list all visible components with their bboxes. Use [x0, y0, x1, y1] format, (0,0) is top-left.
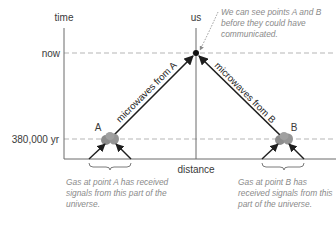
- brace-a: [89, 163, 131, 170]
- signal-to-a-left-arrow: [89, 144, 105, 159]
- signal-to-a-right-arrow: [116, 144, 131, 159]
- svg-text:part of the universe.: part of the universe.: [237, 199, 312, 209]
- svg-text:signals from this part of the: signals from this part of the: [66, 188, 167, 198]
- signal-to-b-right-arrow: [289, 144, 304, 159]
- observer-label: us: [191, 12, 202, 23]
- svg-text:We can see points A and B: We can see points A and B: [221, 7, 322, 17]
- gas-blob-b: [275, 132, 293, 145]
- distance-axis-label: distance: [177, 164, 215, 175]
- observer-annotation: We can see points A and B before they co…: [221, 7, 322, 39]
- microwaves-from-a-arrow: [112, 56, 193, 137]
- observer-note-pointer: [200, 12, 218, 50]
- recombination-tick-label: 380,000 yr: [12, 134, 60, 145]
- svg-text:communicated.: communicated.: [221, 29, 278, 39]
- microwaves-from-a-label: microwaves from A: [114, 59, 180, 125]
- svg-text:before they could have: before they could have: [221, 18, 306, 28]
- gas-blob-a: [101, 132, 119, 145]
- signal-to-b-left-arrow: [262, 144, 278, 159]
- time-axis-label: time: [55, 12, 74, 23]
- now-tick-label: now: [42, 48, 61, 59]
- point-a-label: A: [95, 122, 102, 133]
- point-b-annotation: Gas at point B has received signals from…: [237, 177, 333, 209]
- microwaves-from-b-label: microwaves from B: [213, 60, 278, 125]
- observer-event-dot: [193, 50, 199, 56]
- spacetime-diagram: time us now 380,000 yr distance microwav…: [0, 0, 336, 226]
- brace-b: [262, 163, 304, 170]
- svg-text:universe.: universe.: [66, 199, 100, 209]
- point-b-label: B: [291, 122, 298, 133]
- svg-text:Gas at point A has received: Gas at point A has received: [66, 177, 169, 187]
- svg-text:received signals from this: received signals from this: [238, 188, 333, 198]
- point-a-annotation: Gas at point A has received signals from…: [66, 177, 169, 209]
- svg-text:Gas at point B has: Gas at point B has: [238, 177, 308, 187]
- microwaves-from-b-arrow: [199, 56, 282, 137]
